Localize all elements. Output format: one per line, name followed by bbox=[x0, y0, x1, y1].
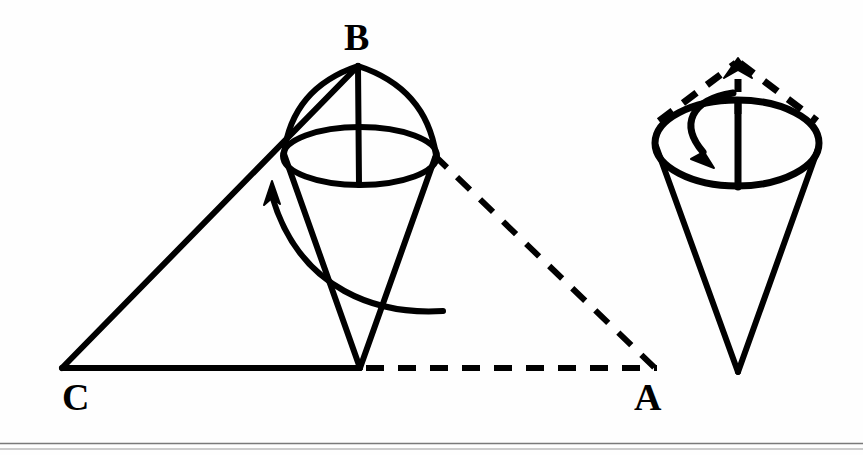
left-diagram-group bbox=[62, 66, 657, 368]
vertex-label-a: A bbox=[634, 378, 661, 416]
triangle-edge-ba-dashed bbox=[434, 155, 655, 368]
footer-rules-group bbox=[0, 444, 863, 450]
right-diagram-group bbox=[655, 58, 819, 372]
cone-rotation-figure bbox=[0, 0, 863, 455]
triangle-edge-cb bbox=[62, 66, 358, 368]
left-cone-axis-line bbox=[358, 66, 359, 185]
figure-canvas: B C A bbox=[0, 0, 863, 455]
vertex-label-b: B bbox=[344, 18, 369, 56]
vertex-label-c: C bbox=[62, 378, 89, 416]
right-dashed-tent-right bbox=[740, 63, 817, 121]
